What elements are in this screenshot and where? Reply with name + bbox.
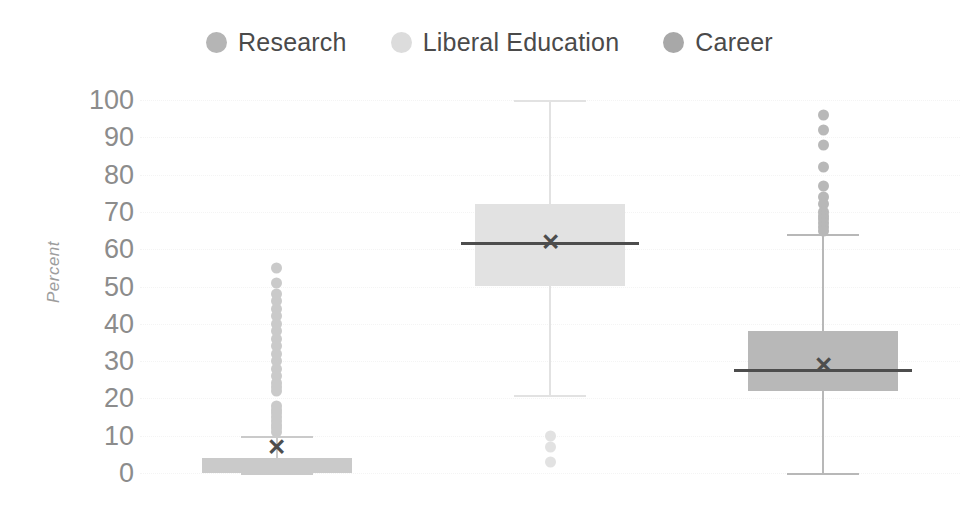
y-axis-tick-0: 0: [60, 460, 134, 487]
legend-swatch-liberal-education-icon: [391, 32, 412, 53]
whisker-cap-low: [787, 473, 859, 475]
whisker-cap-high: [514, 100, 586, 102]
y-axis-tick-70: 70: [60, 198, 134, 225]
y-axis-tick-90: 90: [60, 124, 134, 151]
y-axis-tick-20: 20: [60, 385, 134, 412]
y-axis-tick-80: 80: [60, 161, 134, 188]
y-axis-tick-50: 50: [60, 273, 134, 300]
legend-swatch-research-icon: [206, 32, 227, 53]
y-axis-tick-10: 10: [60, 422, 134, 449]
legend-label-liberal-education: Liberal Education: [423, 30, 620, 55]
box-plot-liberal-education[interactable]: ✕: [475, 100, 625, 473]
outlier-point: [818, 225, 829, 236]
legend-item-liberal-education[interactable]: Liberal Education: [391, 30, 620, 55]
legend-label-career: Career: [695, 30, 773, 55]
box-plot-chart: Research Liberal Education Career Percen…: [0, 0, 979, 514]
mean-marker: ✕: [812, 354, 834, 376]
outlier-point: [818, 124, 829, 135]
outlier-point: [818, 109, 829, 120]
whisker-cap-low: [514, 395, 586, 397]
box-iqr: [202, 458, 352, 473]
outlier-point: [545, 430, 556, 441]
legend-swatch-career-icon: [663, 32, 684, 53]
chart-legend: Research Liberal Education Career: [0, 22, 979, 62]
mean-marker: ✕: [266, 436, 288, 458]
y-axis-tick-100: 100: [60, 87, 134, 114]
outlier-point: [545, 441, 556, 452]
y-axis-tick-labels: 1009080706050403020100: [60, 0, 134, 514]
whisker-cap-low: [241, 473, 313, 475]
y-axis-tick-30: 30: [60, 348, 134, 375]
outlier-point: [271, 277, 282, 288]
plot-area: ✕✕✕: [140, 100, 960, 473]
box-plot-research[interactable]: ✕: [202, 100, 352, 473]
legend-item-research[interactable]: Research: [206, 30, 347, 55]
mean-marker: ✕: [539, 231, 561, 253]
outlier-point: [271, 262, 282, 273]
box-plot-career[interactable]: ✕: [748, 100, 898, 473]
outlier-point: [545, 456, 556, 467]
outlier-point: [271, 385, 282, 396]
y-axis-tick-60: 60: [60, 236, 134, 263]
outlier-point: [818, 139, 829, 150]
legend-label-research: Research: [238, 30, 347, 55]
y-axis-tick-40: 40: [60, 310, 134, 337]
outlier-point: [818, 162, 829, 173]
legend-item-career[interactable]: Career: [663, 30, 773, 55]
outlier-point: [818, 180, 829, 191]
